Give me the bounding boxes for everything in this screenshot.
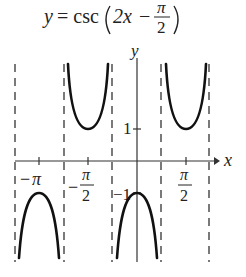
csc-graph: y = csc 2x − π 2 x y − π − π (0, 0, 246, 277)
curve-branch-2 (68, 64, 108, 129)
chart-title: y = csc 2x − π 2 (42, 0, 178, 37)
curve-branch-4 (166, 64, 206, 129)
svg-text:−: − (139, 5, 150, 27)
asymptotes (15, 64, 209, 262)
title-lhs: = csc (57, 5, 99, 27)
axes (15, 58, 220, 262)
svg-text:−: − (68, 177, 78, 197)
svg-text:π: π (82, 166, 91, 183)
svg-text:2: 2 (180, 187, 188, 204)
svg-text:π: π (157, 0, 166, 17)
svg-text:π: π (180, 166, 189, 183)
svg-text:2x: 2x (113, 5, 132, 27)
svg-text:π: π (32, 169, 42, 189)
svg-text:1: 1 (123, 119, 132, 138)
y-axis-label: y (129, 41, 139, 60)
svg-text:y: y (42, 5, 53, 28)
svg-text:2: 2 (157, 18, 166, 37)
x-axis-label: x (223, 150, 232, 170)
x-axis-arrow-icon (214, 157, 220, 165)
svg-text:2: 2 (82, 187, 90, 204)
svg-text:−: − (20, 169, 30, 189)
curve-branch-1 (19, 193, 59, 258)
